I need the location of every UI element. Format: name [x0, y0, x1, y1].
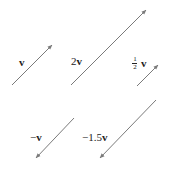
label-neg-1-5v-coefficient: −1.5	[82, 131, 102, 143]
arrows-layer	[0, 0, 171, 171]
vector-scaling-diagram: v 2v 1 2 v −v −1.5v	[0, 0, 171, 171]
arrow-v	[12, 45, 52, 85]
label-2v-symbol: v	[77, 55, 83, 67]
label-v: v	[19, 57, 25, 68]
label-neg-v: −v	[30, 132, 42, 143]
arrow-neg-1-5v	[100, 100, 156, 158]
label-half-denominator: 2	[132, 64, 138, 71]
label-half-v-symbol: v	[141, 58, 147, 69]
label-neg-1-5v-symbol: v	[102, 131, 108, 143]
arrow-2v	[71, 10, 146, 85]
label-half-numerator: 1	[132, 56, 138, 63]
label-2v: 2v	[71, 56, 82, 67]
label-neg-1-5v: −1.5v	[82, 132, 107, 143]
label-neg-v-symbol: v	[36, 131, 42, 143]
